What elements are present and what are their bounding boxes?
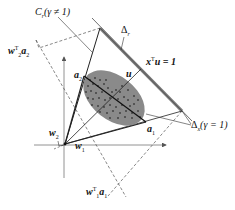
label-w2a2: wT2a2: [8, 45, 29, 58]
label-a2: a2: [74, 70, 82, 82]
label-w2: w2: [49, 128, 59, 140]
label-w1: w1: [75, 141, 85, 153]
ray-a2: [65, 76, 84, 144]
label-delta-r: Δr: [121, 25, 130, 37]
dashed-w2a2-boundary: [36, 28, 100, 48]
cone-diagram: Cr(γ ≠ 1) Δr xTu = 1 u a2 a1 w2 w1 wT2a2…: [0, 0, 235, 210]
pointer-delta-r: [121, 37, 124, 50]
pointer-delta-x-2: [182, 111, 191, 124]
label-cone-c: Cr(γ ≠ 1): [35, 7, 70, 19]
label-w1a1: wT1a1: [86, 186, 107, 199]
diagram-canvas: [0, 0, 235, 210]
label-hyperplane: xTu = 1: [146, 56, 176, 67]
origin-point: [64, 143, 67, 146]
label-delta-x: Δx(γ = 1): [191, 120, 227, 132]
pointer-cone-c: [58, 17, 92, 52]
label-a1: a1: [147, 124, 155, 136]
label-u: u: [126, 69, 132, 79]
